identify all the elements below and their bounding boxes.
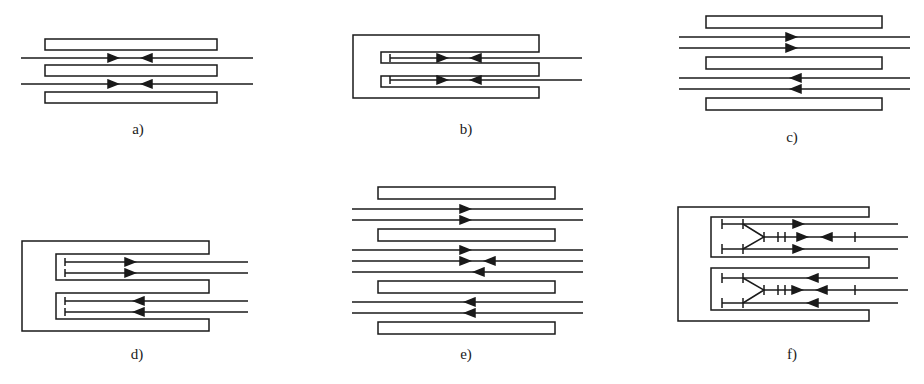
panel-b <box>353 35 582 98</box>
panel-label-f: f) <box>787 346 797 363</box>
panel-f <box>678 207 908 321</box>
figure-diagram <box>0 0 924 384</box>
panel-label-d: d) <box>131 346 144 363</box>
panel-label-a: a) <box>132 121 144 138</box>
panel-a <box>21 39 253 103</box>
panel-label-b: b) <box>460 121 473 138</box>
panel-d <box>22 241 248 331</box>
panel-label-e: e) <box>460 346 472 363</box>
panel-c <box>679 16 910 110</box>
panel-label-c: c) <box>786 129 798 146</box>
panel-e <box>352 187 583 334</box>
